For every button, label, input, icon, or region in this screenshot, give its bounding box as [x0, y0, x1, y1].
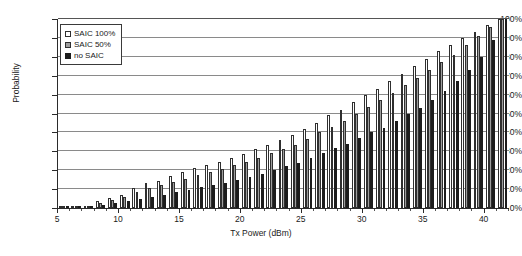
x-tick-minor	[398, 209, 399, 211]
bar-group	[193, 19, 203, 208]
x-tick-label: 35	[408, 214, 438, 224]
bar	[370, 132, 373, 208]
bar-group	[461, 19, 471, 208]
legend-item: SAIC 100%	[65, 28, 115, 39]
bar	[163, 195, 166, 208]
bar	[188, 190, 191, 208]
x-tick-minor	[106, 209, 107, 211]
bar-group	[413, 19, 423, 208]
x-tick-minor	[471, 209, 472, 211]
bar	[273, 170, 276, 208]
bar-group	[303, 19, 313, 208]
bars-layer	[58, 19, 509, 208]
x-tick-minor	[228, 209, 229, 211]
bar-group	[169, 19, 179, 208]
bar-group	[352, 19, 362, 208]
x-tick-mark	[240, 209, 241, 213]
x-tick-label: 20	[225, 214, 255, 224]
bar	[249, 177, 252, 208]
x-tick-minor	[410, 209, 411, 211]
legend-item-label: SAIC 50%	[74, 40, 111, 49]
bar-group	[449, 19, 459, 208]
bar-group	[425, 19, 435, 208]
bar	[383, 128, 386, 208]
x-tick-minor	[374, 209, 375, 211]
bar	[127, 201, 130, 208]
bar-group	[218, 19, 228, 208]
bar-group	[437, 19, 447, 208]
legend-item: SAIC 50%	[65, 39, 115, 50]
bar	[456, 81, 459, 208]
bar	[224, 183, 227, 209]
bar-group	[266, 19, 276, 208]
bar	[139, 199, 142, 208]
bar-group	[279, 19, 289, 208]
bar-group	[376, 19, 386, 208]
bar-group	[498, 19, 508, 208]
bar	[407, 114, 410, 208]
x-tick-label: 30	[347, 214, 377, 224]
bar-group	[388, 19, 398, 208]
x-tick-mark	[362, 209, 363, 213]
x-tick-minor	[276, 209, 277, 211]
bar-group	[157, 19, 167, 208]
bar-group	[364, 19, 374, 208]
bar-group	[401, 19, 411, 208]
bar-group	[486, 19, 496, 208]
x-tick-minor	[508, 209, 509, 211]
x-tick-mark	[118, 209, 119, 213]
bar-group	[315, 19, 325, 208]
bar-group	[327, 19, 337, 208]
x-tick-minor	[459, 209, 460, 211]
bar	[212, 185, 215, 208]
bar	[444, 91, 447, 208]
bar-chart: Probability 0%10%20%30%40%50%60%70%80%90…	[0, 0, 522, 256]
bar-group	[145, 19, 155, 208]
x-tick-minor	[447, 209, 448, 211]
x-tick-label: 40	[469, 214, 499, 224]
bar-group	[340, 19, 350, 208]
x-tick-mark	[423, 209, 424, 213]
bar	[114, 203, 117, 208]
bar-group	[181, 19, 191, 208]
x-tick-minor	[142, 209, 143, 211]
x-tick-minor	[130, 209, 131, 211]
plot-area	[57, 19, 509, 209]
bar	[175, 192, 178, 208]
x-tick-minor	[215, 209, 216, 211]
bar	[492, 40, 495, 208]
bar-group	[230, 19, 240, 208]
bar-group	[474, 19, 484, 208]
x-tick-minor	[94, 209, 95, 211]
bar	[78, 206, 81, 208]
bar	[200, 187, 203, 208]
x-tick-minor	[191, 209, 192, 211]
x-tick-mark	[301, 209, 302, 213]
bar	[261, 174, 264, 208]
bar-group	[254, 19, 264, 208]
x-tick-minor	[350, 209, 351, 211]
x-tick-minor	[496, 209, 497, 211]
bar	[480, 57, 483, 208]
x-tick-minor	[264, 209, 265, 211]
x-tick-minor	[167, 209, 168, 211]
legend-item-label: no SAIC	[74, 51, 104, 60]
bar	[346, 144, 349, 208]
bar	[236, 180, 239, 208]
bar	[468, 70, 471, 208]
x-tick-minor	[435, 209, 436, 211]
bar	[310, 158, 313, 208]
bar	[334, 148, 337, 208]
bar-group	[205, 19, 215, 208]
x-axis-title: Tx Power (dBm)	[0, 228, 522, 238]
x-tick-mark	[57, 209, 58, 213]
bar	[419, 108, 422, 208]
x-tick-minor	[155, 209, 156, 211]
bar	[151, 197, 154, 208]
x-tick-label: 15	[164, 214, 194, 224]
y-axis-title: Probability	[11, 43, 21, 123]
x-tick-minor	[325, 209, 326, 211]
x-tick-label: 5	[42, 214, 72, 224]
x-tick-label: 10	[103, 214, 133, 224]
legend-swatch-icon	[65, 31, 71, 37]
